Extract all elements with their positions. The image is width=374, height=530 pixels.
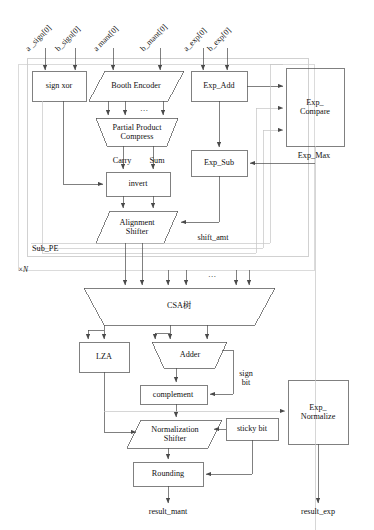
wire-expsub-shiftamt	[181, 176, 219, 222]
sub-pe-boundary	[27, 58, 308, 256]
exp-compare-box	[286, 68, 344, 146]
exp-add-box	[191, 71, 247, 101]
lza-box	[79, 342, 129, 372]
alignment-shifter-shape	[96, 211, 178, 243]
wire-signxor-invert	[63, 101, 103, 184]
normalization-shifter-shape	[127, 420, 222, 448]
invert-box	[106, 172, 170, 196]
bus-line-2	[263, 130, 283, 248]
bus-line-3	[270, 64, 283, 243]
adder-shape	[152, 342, 227, 368]
csa-tree-shape	[84, 288, 275, 325]
wire-sticky-rounding	[206, 440, 252, 474]
ppc-shape	[96, 118, 178, 146]
sticky-bit-box	[226, 418, 278, 440]
booth-encoder-shape	[89, 71, 184, 101]
diagram-wiring	[0, 0, 374, 530]
complement-box	[140, 385, 207, 404]
exp-sub-box	[191, 150, 247, 176]
wire-sign-bit	[210, 350, 233, 394]
exp-normalize-box	[288, 380, 348, 444]
diagram-canvas: a _sign[0] b_sign[0] a mant[0] b_mant[0]…	[0, 0, 374, 530]
wire-lza-norm	[104, 372, 136, 432]
sign-xor-box	[32, 71, 86, 101]
rounding-box	[133, 462, 203, 486]
